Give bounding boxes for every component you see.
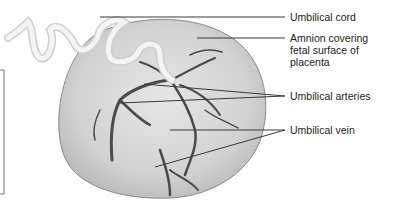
label-amnion: Amnion covering fetal surface of placent…	[290, 32, 368, 68]
label-umbilical-vein: Umbilical vein	[290, 124, 355, 136]
bracket-box	[0, 70, 4, 194]
label-umbilical-arteries: Umbilical arteries	[290, 90, 371, 102]
label-umbilical-cord: Umbilical cord	[290, 11, 356, 23]
